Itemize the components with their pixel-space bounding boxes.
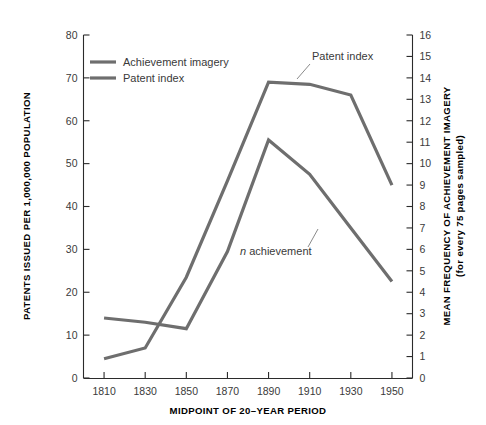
right-tick-label: 13 [420, 93, 432, 105]
right-tick-label: 10 [420, 157, 432, 169]
x-tick-label: 1830 [134, 385, 158, 397]
legend-label-0: Achievement imagery [123, 56, 229, 68]
right-tick-label: 12 [420, 115, 432, 127]
right-tick-label: 1 [420, 350, 426, 362]
left-tick-label: 80 [66, 29, 78, 41]
annotation-label-patent-index: Patent index [312, 50, 374, 62]
left-tick-label: 50 [66, 157, 78, 169]
x-tick-label: 1950 [380, 385, 404, 397]
right-axis-title-line1: MEAN FREQUENCY OF ACHIEVEMENT IMAGERY [441, 86, 452, 325]
right-tick-label: 16 [420, 29, 432, 41]
right-tick-label: 8 [420, 200, 426, 212]
right-tick-label: 14 [420, 72, 432, 84]
x-tick-label: 1910 [298, 385, 322, 397]
legend-label-1: Patent index [123, 72, 185, 84]
left-tick-label: 70 [66, 72, 78, 84]
right-axis-title-line2: (for every 75 pages sampled) [454, 135, 465, 277]
right-tick-label: 7 [420, 222, 426, 234]
right-tick-label: 15 [420, 50, 432, 62]
left-tick-label: 0 [72, 372, 78, 384]
right-tick-label: 3 [420, 307, 426, 319]
x-tick-label: 1850 [175, 385, 199, 397]
x-tick-label: 1810 [92, 385, 116, 397]
x-tick-label: 1890 [257, 385, 281, 397]
right-tick-label: 0 [420, 372, 426, 384]
right-tick-label: 6 [420, 243, 426, 255]
right-tick-label: 4 [420, 286, 426, 298]
right-tick-label: 11 [420, 136, 431, 148]
left-tick-label: 40 [66, 200, 78, 212]
left-tick-label: 10 [66, 329, 78, 341]
line-chart: 01020304050607080 PATENTS ISSUED PER 1,0… [0, 0, 486, 425]
x-axis-title: MIDPOINT OF 20–YEAR PERIOD [170, 405, 327, 416]
annotation-label-n-achievement: n achievement [240, 245, 312, 257]
left-tick-label: 20 [66, 286, 78, 298]
right-tick-label: 5 [420, 265, 426, 277]
left-tick-label: 30 [66, 243, 78, 255]
right-tick-label: 2 [420, 329, 426, 341]
left-axis-title: PATENTS ISSUED PER 1,000,000 POPULATION [21, 92, 32, 320]
annotation-n-rest: achievement [246, 245, 311, 257]
chart-container: 01020304050607080 PATENTS ISSUED PER 1,0… [0, 0, 486, 425]
right-tick-label: 9 [420, 179, 426, 191]
x-tick-label: 1930 [339, 385, 363, 397]
left-tick-label: 60 [66, 115, 78, 127]
x-tick-label: 1870 [216, 385, 240, 397]
